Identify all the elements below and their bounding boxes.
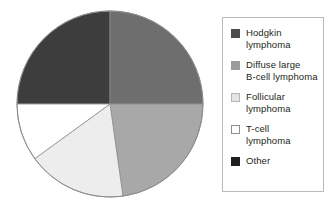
pie-slice[interactable] bbox=[17, 11, 110, 104]
legend-swatch-icon bbox=[231, 29, 240, 38]
legend-item[interactable]: Diffuse large B-cell lymphoma bbox=[231, 59, 319, 82]
legend-swatch-icon bbox=[231, 61, 240, 70]
legend-item[interactable]: T-cell lymphoma bbox=[231, 123, 319, 146]
legend-item-label: Follicular lymphoma bbox=[246, 91, 291, 114]
legend-item[interactable]: Hodgkin lymphoma bbox=[231, 27, 319, 50]
legend-item[interactable]: Other bbox=[231, 155, 319, 167]
pie-slice[interactable] bbox=[110, 11, 203, 104]
legend-swatch-icon bbox=[231, 125, 240, 134]
pie-svg bbox=[14, 8, 206, 200]
legend-item[interactable]: Follicular lymphoma bbox=[231, 91, 319, 114]
legend-item-label: Hodgkin lymphoma bbox=[246, 27, 291, 50]
pie-slice[interactable] bbox=[110, 104, 203, 196]
legend-item-label: T-cell lymphoma bbox=[246, 123, 291, 146]
legend-swatch-icon bbox=[231, 157, 240, 166]
pie-chart-figure: Hodgkin lymphomaDiffuse large B-cell lym… bbox=[0, 0, 333, 215]
pie-chart-graphic bbox=[14, 8, 206, 200]
chart-legend: Hodgkin lymphomaDiffuse large B-cell lym… bbox=[222, 17, 324, 192]
legend-item-list: Hodgkin lymphomaDiffuse large B-cell lym… bbox=[231, 27, 319, 167]
legend-swatch-icon bbox=[231, 93, 240, 102]
pie-slice-group bbox=[17, 11, 203, 197]
legend-item-label: Other bbox=[246, 155, 270, 167]
legend-item-label: Diffuse large B-cell lymphoma bbox=[246, 59, 318, 82]
